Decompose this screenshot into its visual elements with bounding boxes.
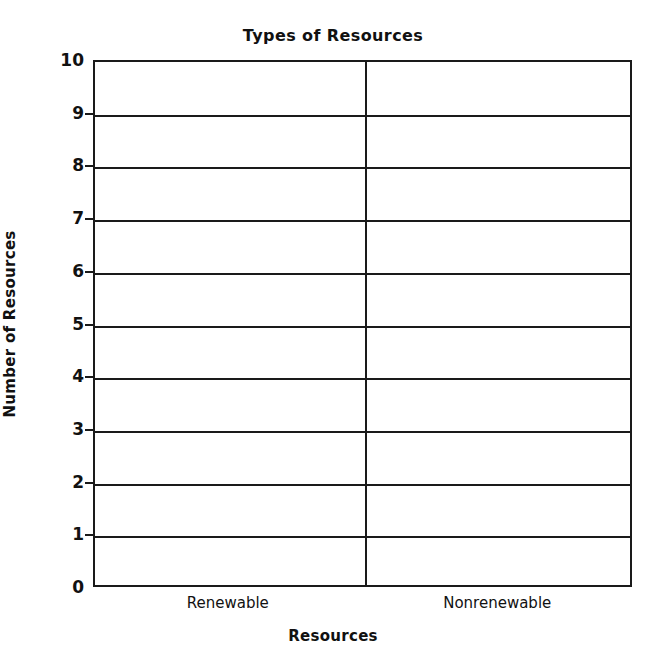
plot-area: [93, 60, 632, 587]
y-axis-tick-mark: [85, 376, 93, 378]
y-axis-tick-label: 4: [0, 368, 84, 385]
gridline: [95, 431, 630, 433]
y-axis-tick-mark: [85, 165, 93, 167]
y-axis-tick-label: 6: [0, 262, 84, 279]
gridline: [95, 167, 630, 169]
chart-title: Types of Resources: [0, 26, 666, 45]
gridline: [95, 220, 630, 222]
y-axis-tick-label: 1: [0, 526, 84, 543]
y-axis-tick-label: 8: [0, 157, 84, 174]
y-axis-tick-mark: [85, 534, 93, 536]
y-axis-tick-mark: [85, 218, 93, 220]
category-divider: [365, 62, 367, 585]
gridline: [95, 378, 630, 380]
y-axis-tick-label: 2: [0, 473, 84, 490]
gridline: [95, 273, 630, 275]
y-axis-tick-mark: [85, 271, 93, 273]
gridline: [95, 536, 630, 538]
gridline: [95, 484, 630, 486]
bar-chart: Types of Resources Number of Resources 1…: [0, 0, 666, 672]
y-axis-tick-label: 0: [0, 579, 84, 596]
y-axis-tick-label: 10: [0, 52, 84, 69]
x-axis-category-label: Renewable: [187, 594, 269, 612]
x-axis-category-label: Nonrenewable: [443, 594, 551, 612]
y-axis-tick-label: 3: [0, 420, 84, 437]
x-axis-title: Resources: [0, 627, 666, 645]
gridline: [95, 115, 630, 117]
y-axis-tick-mark: [85, 324, 93, 326]
y-axis-tick-mark: [85, 113, 93, 115]
y-axis-tick-label: 5: [0, 315, 84, 332]
y-axis-tick-mark: [85, 429, 93, 431]
y-axis-tick-label: 9: [0, 104, 84, 121]
y-axis-tick-mark: [85, 482, 93, 484]
y-axis-tick-label: 7: [0, 210, 84, 227]
gridline: [95, 326, 630, 328]
